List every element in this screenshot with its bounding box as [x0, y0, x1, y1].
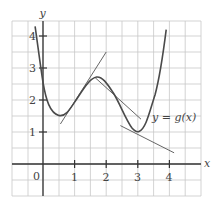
- x-axis-label: x: [204, 157, 211, 170]
- curve-label: y = g(x): [151, 111, 196, 124]
- origin-label: 0: [33, 170, 40, 183]
- y-tick-label-3: 3: [29, 62, 36, 75]
- y-axis-label: y: [39, 7, 47, 20]
- graph: 0 1 2 3 4 1 2 3 4 y x y = g(x): [0, 0, 220, 206]
- x-tick-label-4: 4: [166, 171, 173, 184]
- grid: [12, 21, 201, 196]
- y-tick-label-4: 4: [29, 30, 36, 43]
- x-tick-label-1: 1: [71, 171, 78, 184]
- y-tick-label-2: 2: [29, 94, 36, 107]
- x-tick-label-3: 3: [134, 171, 141, 184]
- y-tick-label-1: 1: [29, 126, 36, 139]
- tangent-line-3: [120, 126, 174, 153]
- x-tick-label-2: 2: [103, 171, 110, 184]
